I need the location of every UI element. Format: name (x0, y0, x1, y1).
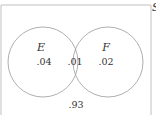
set-f-only-value: .02 (98, 56, 113, 67)
set-e-only-value: .04 (36, 56, 51, 67)
outside-value: .93 (68, 99, 83, 110)
set-e-label: E (36, 41, 45, 54)
sample-space-label: S (152, 1, 156, 14)
intersection-value: .01 (67, 56, 82, 67)
venn-diagram: S E .04 F .02 .01 .93 (0, 0, 156, 115)
set-f-label: F (101, 41, 110, 54)
